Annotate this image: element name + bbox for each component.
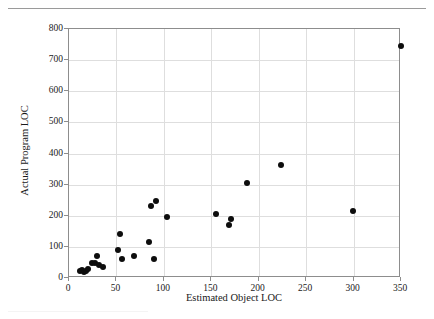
x-tick-mark <box>400 277 401 281</box>
gridline-horizontal <box>69 154 399 155</box>
bottom-horizontal-rule <box>8 311 148 312</box>
data-point <box>350 208 356 214</box>
data-point <box>278 162 284 168</box>
gridline-vertical <box>306 29 307 276</box>
data-point <box>115 247 121 253</box>
data-point <box>153 198 159 204</box>
plot-area <box>68 28 400 277</box>
data-point <box>148 203 154 209</box>
gridline-horizontal <box>69 185 399 186</box>
gridline-horizontal <box>69 91 399 92</box>
y-axis-title: Actual Program LOC <box>19 81 30 221</box>
data-point <box>85 266 91 272</box>
x-tick-mark <box>258 277 259 281</box>
y-tick-label: 700 <box>23 54 63 64</box>
y-tick-mark <box>64 90 68 91</box>
y-tick-mark <box>64 153 68 154</box>
x-tick-mark <box>210 277 211 281</box>
data-point <box>100 264 106 270</box>
gridline-horizontal <box>69 122 399 123</box>
gridline-vertical <box>211 29 212 276</box>
y-tick-label: 0 <box>23 272 63 282</box>
gridline-vertical <box>164 29 165 276</box>
x-tick-mark <box>115 277 116 281</box>
data-point <box>228 216 234 222</box>
data-point <box>131 253 137 259</box>
y-tick-mark <box>64 246 68 247</box>
y-tick-mark <box>64 59 68 60</box>
y-tick-mark <box>64 28 68 29</box>
y-tick-label: 800 <box>23 23 63 33</box>
data-point <box>398 43 404 49</box>
gridline-vertical <box>259 29 260 276</box>
data-point <box>117 231 123 237</box>
gridline-vertical <box>354 29 355 276</box>
gridline-horizontal <box>69 216 399 217</box>
data-point <box>146 239 152 245</box>
gridline-horizontal <box>69 60 399 61</box>
data-point <box>94 253 100 259</box>
data-point <box>151 256 157 262</box>
scatter-chart-figure: 0100200300400500600700800 05010015020025… <box>0 0 434 319</box>
data-point <box>119 256 125 262</box>
y-tick-mark <box>64 215 68 216</box>
x-tick-mark <box>305 277 306 281</box>
y-tick-mark <box>64 121 68 122</box>
x-tick-mark <box>68 277 69 281</box>
y-tick-mark <box>64 184 68 185</box>
x-axis-title: Estimated Object LOC <box>68 292 400 303</box>
gridline-vertical <box>116 29 117 276</box>
x-tick-mark <box>163 277 164 281</box>
x-tick-mark <box>353 277 354 281</box>
data-point <box>226 222 232 228</box>
data-point <box>164 214 170 220</box>
y-tick-label: 100 <box>23 241 63 251</box>
data-point <box>213 211 219 217</box>
